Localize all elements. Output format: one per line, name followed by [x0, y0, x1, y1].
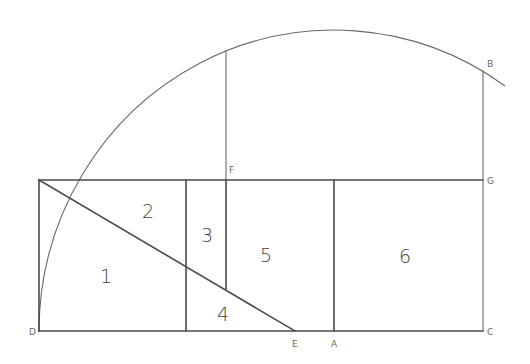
region-1-label: 1 [100, 265, 112, 287]
point-C-label: C [487, 327, 493, 337]
point-G-label: G [487, 176, 494, 186]
golden-rectangle-diagram: 1 2 3 4 5 6 D E A C G F B [0, 0, 530, 364]
point-A-label: A [331, 339, 338, 349]
diagonal-to-E [39, 180, 295, 331]
point-F-label: F [229, 165, 234, 175]
region-2-label: 2 [142, 200, 154, 222]
point-E-label: E [292, 339, 298, 349]
point-B-label: B [487, 59, 493, 69]
region-4-label: 4 [217, 303, 229, 325]
point-D-label: D [29, 327, 36, 337]
region-3-label: 3 [201, 224, 213, 246]
region-5-label: 5 [260, 244, 272, 266]
region-6-label: 6 [399, 245, 411, 267]
